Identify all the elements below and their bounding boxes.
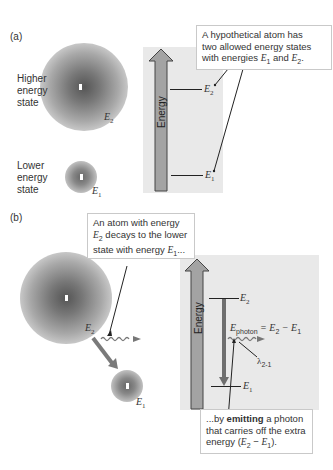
wavelength-label: λ2-1 bbox=[257, 356, 272, 368]
photon-energy-equation: Ephoton = E2 − E1 bbox=[230, 322, 301, 335]
callout-b-top: An atom with energy E2 decays to the low… bbox=[87, 213, 195, 259]
callout-b-bottom: ...by emitting a photon that carries off… bbox=[200, 409, 313, 454]
